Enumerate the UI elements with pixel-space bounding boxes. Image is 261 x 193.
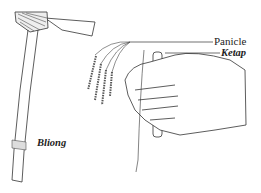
panicle-label: Panicle	[214, 35, 246, 47]
bliong-label: Bliong	[37, 137, 66, 148]
hand-with-ketap-drawing	[125, 50, 246, 172]
ketap-label: Ketap	[221, 47, 246, 58]
bliong-axe-drawing	[12, 12, 95, 182]
panicle-drawing	[88, 42, 130, 105]
illustration	[0, 0, 261, 193]
